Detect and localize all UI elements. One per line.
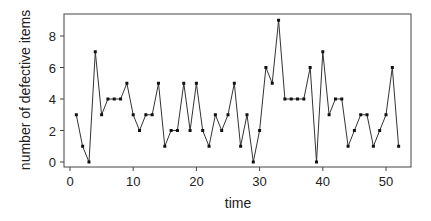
data-point (81, 145, 84, 148)
data-point (347, 145, 350, 148)
data-line (76, 20, 398, 162)
x-axis-label: time (225, 195, 252, 211)
data-point (75, 113, 78, 116)
data-point (302, 98, 305, 101)
data-point (132, 113, 135, 116)
data-point (239, 145, 242, 148)
plot-frame (64, 14, 411, 167)
data-point (113, 98, 116, 101)
y-tick-label: 8 (49, 29, 56, 44)
y-axis-label: number of defective items (17, 10, 33, 170)
data-point (258, 129, 261, 132)
data-point (264, 66, 267, 69)
data-point (277, 19, 280, 22)
data-point (328, 113, 331, 116)
y-tick-label: 4 (49, 92, 56, 107)
data-point (359, 113, 362, 116)
data-point (321, 50, 324, 53)
data-point (252, 161, 255, 164)
y-tick-label: 6 (49, 61, 56, 76)
data-point (334, 98, 337, 101)
data-point (214, 113, 217, 116)
x-tick-label: 10 (126, 174, 140, 189)
data-point (271, 82, 274, 85)
data-point (100, 113, 103, 116)
x-tick-label: 0 (66, 174, 73, 189)
data-point (182, 82, 185, 85)
data-point (176, 129, 179, 132)
data-point (385, 113, 388, 116)
data-point (315, 161, 318, 164)
data-point (227, 113, 230, 116)
data-point (119, 98, 122, 101)
data-point (106, 98, 109, 101)
data-point (87, 161, 90, 164)
data-point (372, 145, 375, 148)
data-point (397, 145, 400, 148)
data-point (94, 50, 97, 53)
data-point (283, 98, 286, 101)
data-point (125, 82, 128, 85)
data-point (353, 129, 356, 132)
data-point (163, 145, 166, 148)
data-point (340, 98, 343, 101)
data-point (245, 113, 248, 116)
y-axis: 02468 (49, 29, 64, 170)
x-tick-label: 20 (189, 174, 203, 189)
data-point (233, 82, 236, 85)
data-point (151, 113, 154, 116)
data-point (170, 129, 173, 132)
x-tick-label: 30 (252, 174, 266, 189)
data-point (309, 66, 312, 69)
x-tick-label: 40 (316, 174, 330, 189)
data-point (290, 98, 293, 101)
data-point (366, 113, 369, 116)
line-chart: 02468 01020304050 time number of defecti… (0, 0, 431, 221)
data-point (195, 82, 198, 85)
data-point (201, 129, 204, 132)
data-point (144, 113, 147, 116)
data-point (296, 98, 299, 101)
data-point (391, 66, 394, 69)
data-point (208, 145, 211, 148)
y-tick-label: 0 (49, 155, 56, 170)
x-tick-label: 50 (379, 174, 393, 189)
y-tick-label: 2 (49, 124, 56, 139)
data-point (138, 129, 141, 132)
x-axis: 01020304050 (66, 167, 393, 189)
data-point (378, 129, 381, 132)
data-point (189, 129, 192, 132)
data-point (157, 82, 160, 85)
data-point (220, 129, 223, 132)
